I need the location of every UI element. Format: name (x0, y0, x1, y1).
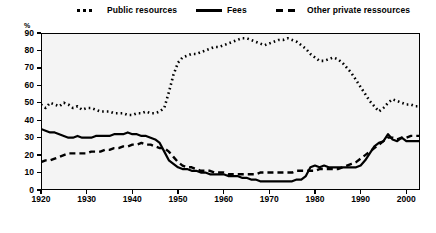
series-line-other-private-ressources (41, 136, 420, 174)
chart-canvas (41, 33, 420, 190)
y-axis-tick-mark (37, 32, 41, 33)
y-axis-tick-mark (37, 172, 41, 173)
x-axis-tick-label: 1980 (298, 195, 332, 204)
y-axis-tick-label: 40 (12, 116, 34, 125)
x-axis-tick-mark (406, 190, 407, 194)
series-line-public-resources (41, 38, 420, 115)
x-axis-tick-mark (269, 190, 270, 194)
legend-label: Other private ressources (307, 6, 410, 15)
x-axis-tick-label: 1950 (161, 195, 195, 204)
y-axis-tick-label: 20 (12, 151, 34, 160)
y-axis-tick-label: 90 (12, 29, 34, 38)
legend-item-public-resources: Public resources (76, 6, 177, 15)
y-axis-tick-mark (37, 85, 41, 86)
y-axis-tick-label: 80 (12, 46, 34, 55)
series-svg (41, 33, 420, 190)
x-axis-tick-mark (360, 190, 361, 194)
y-axis-tick-label: 60 (12, 81, 34, 90)
y-axis-tick-mark (37, 137, 41, 138)
y-axis-tick-label: 70 (12, 63, 34, 72)
x-axis-tick-label: 1940 (115, 195, 149, 204)
y-axis-tick-mark (37, 102, 41, 103)
x-axis-tick-label: 1920 (24, 195, 58, 204)
y-axis-tick-mark (37, 120, 41, 121)
y-axis-tick-mark (37, 50, 41, 51)
y-axis-tick-label: 50 (12, 98, 34, 107)
x-axis-tick-mark (177, 190, 178, 194)
x-axis-tick-mark (223, 190, 224, 194)
y-axis-tick-mark (37, 67, 41, 68)
chart-legend: Public resources Fees Other private ress… (0, 6, 436, 24)
x-axis-tick-mark (132, 190, 133, 194)
x-axis-tick-label: 2000 (389, 195, 423, 204)
x-axis-tick-mark (86, 190, 87, 194)
x-axis-tick-mark (40, 190, 41, 194)
y-axis-tick-mark (37, 154, 41, 155)
x-axis-tick-mark (314, 190, 315, 194)
legend-label: Fees (227, 6, 247, 15)
x-axis-tick-label: 1970 (252, 195, 286, 204)
x-axis-tick-label: 1990 (344, 195, 378, 204)
legend-item-other-private-ressources: Other private ressources (276, 6, 410, 15)
solid-line-swatch-icon (196, 7, 222, 14)
dashed-line-swatch-icon (276, 7, 302, 14)
y-axis-tick-label: 30 (12, 133, 34, 142)
y-axis-tick-label: 0 (12, 186, 34, 195)
x-axis-tick-label: 1960 (207, 195, 241, 204)
x-axis-tick-label: 1930 (70, 195, 104, 204)
dotted-line-swatch-icon (76, 7, 102, 14)
chart-figure: Public resources Fees Other private ress… (0, 0, 436, 233)
y-axis-tick-label: 10 (12, 168, 34, 177)
legend-item-fees: Fees (196, 6, 247, 15)
legend-label: Public resources (107, 6, 177, 15)
